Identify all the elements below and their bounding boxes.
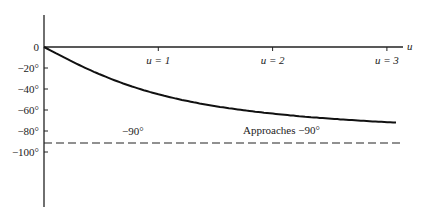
x-tick-label: u = 2: [261, 54, 285, 66]
x-axis-label: u: [407, 40, 413, 52]
x-ticks: u = 1u = 2u = 3: [146, 47, 399, 66]
y-ticks: 0−20°−40°−60°−80°−100°: [12, 41, 48, 158]
phase-chart: u 0−20°−40°−60°−80°−100° u = 1u = 2u = 3…: [0, 0, 426, 219]
phase-curve: [44, 47, 396, 123]
y-tick-label: −40°: [17, 83, 39, 95]
x-tick-label: u = 3: [375, 54, 399, 66]
x-tick-label: u = 1: [146, 54, 170, 66]
y-tick-label: −100°: [12, 146, 39, 158]
y-tick-label: −20°: [17, 62, 39, 74]
y-tick-label: −60°: [17, 104, 39, 116]
y-tick-label: 0: [34, 41, 40, 53]
y-tick-label: −80°: [17, 125, 39, 137]
asymptote-label: −90°: [122, 125, 144, 137]
approaches-label: Approaches −90°: [243, 124, 320, 136]
